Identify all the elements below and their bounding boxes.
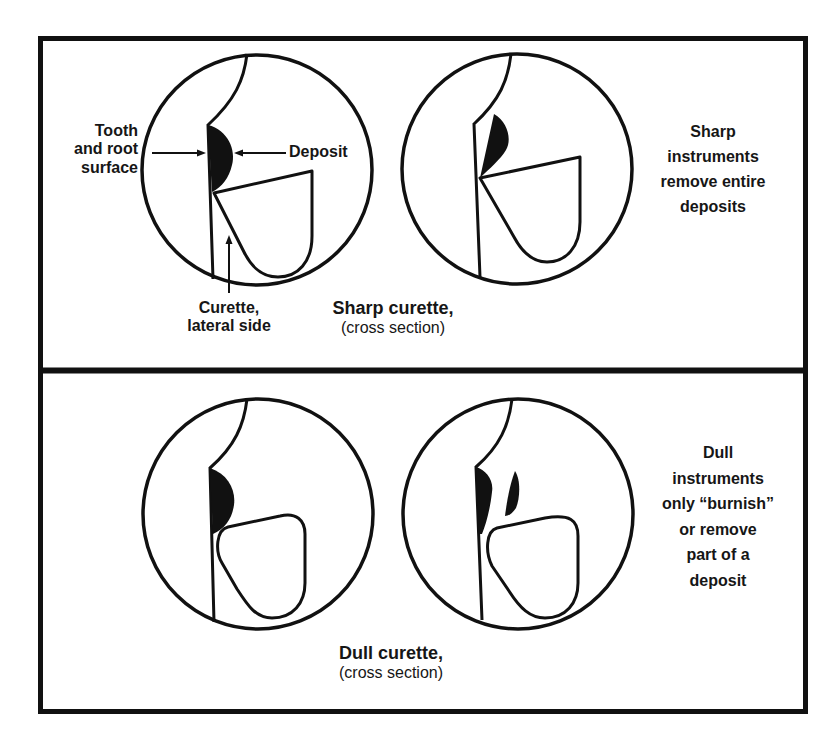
note-line: instruments: [643, 466, 793, 492]
sharp-curette-caption: Sharp curette, (cross section): [318, 298, 468, 337]
dull-curette-after-diagram: [403, 399, 633, 629]
diagram-canvas: [0, 0, 837, 739]
label-line: and root: [52, 140, 138, 158]
dull-curette-caption: Dull curette, (cross section): [321, 643, 461, 682]
caption-title: Dull curette,: [321, 643, 461, 664]
dull-instruments-note: Dull instruments only “burnish” or remov…: [643, 440, 793, 593]
caption-subtitle: (cross section): [321, 664, 461, 682]
note-line: part of a: [643, 542, 793, 568]
label-line: Curette,: [170, 299, 288, 317]
note-line: only “burnish”: [643, 491, 793, 517]
dull-curette-before-diagram: [143, 399, 373, 629]
note-line: Dull: [643, 440, 793, 466]
deposit-label: Deposit: [289, 143, 348, 161]
note-line: instruments: [643, 144, 783, 169]
label-line: Tooth: [52, 122, 138, 140]
note-line: or remove: [643, 517, 793, 543]
sharp-curette-after-diagram: [402, 54, 632, 284]
label-line: surface: [52, 159, 138, 177]
curette-lateral-side-label: Curette, lateral side: [170, 299, 288, 336]
note-line: Sharp: [643, 119, 783, 144]
sharp-curette-before-diagram: [142, 54, 372, 293]
sharp-instruments-note: Sharp instruments remove entire deposits: [643, 119, 783, 219]
caption-title: Sharp curette,: [318, 298, 468, 319]
label-line: lateral side: [170, 317, 288, 335]
caption-subtitle: (cross section): [318, 319, 468, 337]
note-line: deposits: [643, 194, 783, 219]
note-line: deposit: [643, 568, 793, 594]
note-line: remove entire: [643, 169, 783, 194]
tooth-root-surface-label: Tooth and root surface: [52, 122, 138, 177]
